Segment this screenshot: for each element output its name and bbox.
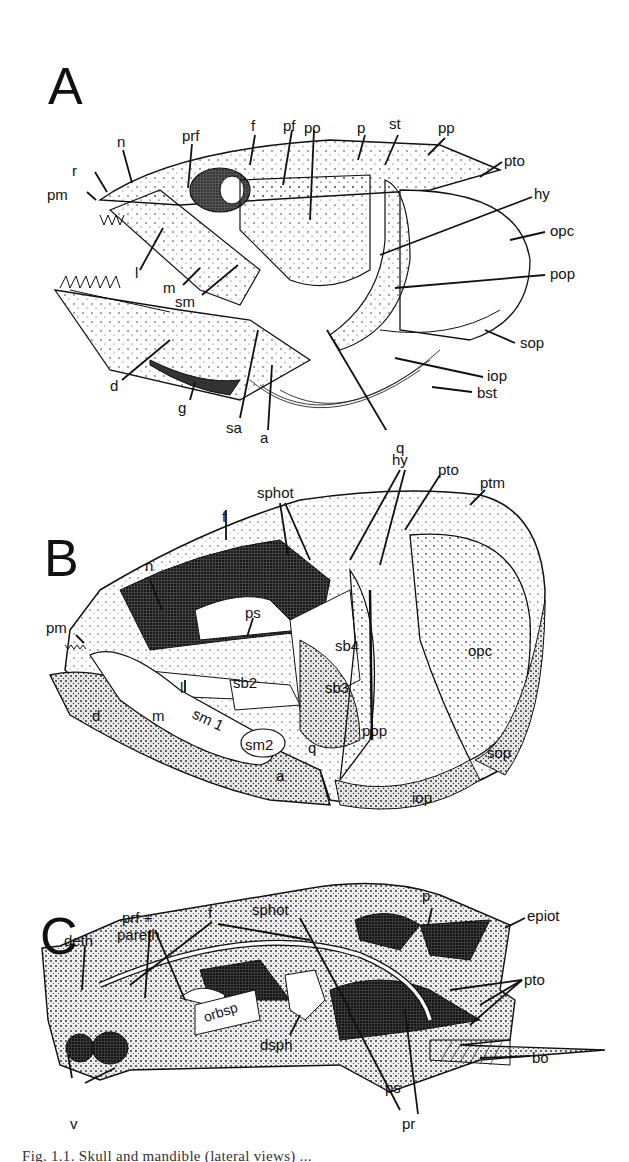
- label-m: m: [152, 708, 165, 723]
- label-sphot: sphot: [252, 902, 289, 917]
- panel-letter-b: B: [44, 532, 79, 584]
- label-n: n: [145, 558, 153, 573]
- label-f: f: [208, 905, 212, 920]
- label-bo: bo: [532, 1050, 549, 1065]
- label-v: v: [70, 1116, 78, 1131]
- label-epiot: epiot: [527, 908, 560, 923]
- label-pm: pm: [47, 187, 68, 202]
- label-iop: iop: [487, 368, 507, 383]
- label-l: l: [180, 680, 183, 695]
- label-f: f: [222, 509, 226, 524]
- label-pto: pto: [438, 462, 459, 477]
- skull-illustration-b: [0, 440, 629, 840]
- label-po: po: [304, 120, 321, 135]
- skull-illustration-a: [0, 40, 629, 430]
- label-sb2: sb2: [233, 675, 257, 690]
- label-q: q: [308, 740, 316, 755]
- label-ps: ps: [385, 1080, 401, 1095]
- panel-letter-a: A: [48, 60, 83, 112]
- label-opc: opc: [550, 223, 574, 238]
- label-sm: sm: [175, 294, 195, 309]
- label-sb4: sb4: [335, 638, 359, 653]
- figure-panel-a: A pm r n prf f pf po p st pp pto hy opc …: [0, 40, 629, 430]
- label-st: st: [389, 116, 401, 131]
- label-prf: prf: [182, 128, 200, 143]
- label-sphot: sphot: [257, 485, 294, 500]
- figure-panel-b: B sphot hy pto ptm f n pm ps opc sb4 l s…: [0, 440, 629, 840]
- label-pto: pto: [524, 972, 545, 987]
- label-m: m: [163, 280, 176, 295]
- label-sop: sop: [487, 745, 511, 760]
- label-sm2: sm2: [245, 737, 273, 752]
- label-bst: bst: [477, 385, 497, 400]
- label-p: p: [357, 120, 365, 135]
- label-opc: opc: [468, 643, 492, 658]
- label-sop: sop: [520, 335, 544, 350]
- label-iop: iop: [412, 790, 432, 805]
- label-deth: deth: [64, 933, 93, 948]
- label-pto: pto: [504, 153, 525, 168]
- figure-caption: Fig. 1.1. Skull and mandible (lateral vi…: [22, 1148, 622, 1162]
- label-g: g: [178, 400, 186, 415]
- figure-panel-c: C prf + pareth f sphot p epiot deth pto …: [0, 880, 629, 1130]
- label-hy: hy: [392, 452, 408, 467]
- label-sa: sa: [226, 420, 242, 435]
- label-d: d: [92, 708, 100, 723]
- label-hy: hy: [534, 186, 550, 201]
- label-a: a: [276, 768, 284, 783]
- label-dsph: dsph: [260, 1037, 293, 1052]
- label-pr: pr: [402, 1116, 415, 1131]
- label-ptm: ptm: [480, 475, 505, 490]
- label-pm: pm: [46, 620, 67, 635]
- label-d: d: [110, 378, 118, 393]
- label-pop: pop: [362, 723, 387, 738]
- label-n: n: [117, 134, 125, 149]
- label-l: l: [135, 265, 138, 280]
- label-prf-pareth-line2: pareth: [117, 927, 160, 942]
- label-f: f: [251, 118, 255, 133]
- label-p: p: [422, 888, 430, 903]
- label-pop: pop: [550, 266, 575, 281]
- label-pp: pp: [438, 120, 455, 135]
- label-r: r: [72, 163, 77, 178]
- label-ps: ps: [245, 605, 261, 620]
- label-prf-pareth-line1: prf +: [122, 910, 152, 925]
- label-sb3: sb3: [325, 680, 349, 695]
- label-pf: pf: [283, 118, 296, 133]
